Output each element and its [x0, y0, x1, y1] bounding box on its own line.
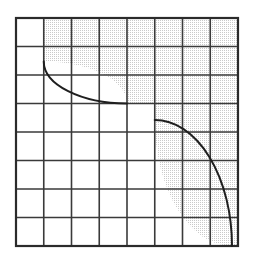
figure-root: Shaded region bounded by two arcs on an …: [0, 0, 255, 275]
grid-figure-svg: [0, 0, 255, 275]
